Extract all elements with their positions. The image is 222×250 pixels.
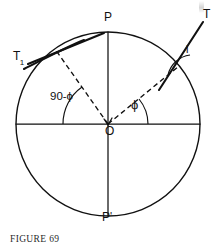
label-pole-bottom: P': [102, 211, 112, 223]
label-pole-bottom-prime: ': [110, 210, 112, 222]
tangent-line-T1-secondary-stroke: [24, 40, 84, 69]
label-tangent-right: T: [203, 8, 210, 20]
label-angle-incidence: i: [186, 44, 188, 55]
figure-caption: FIGURE 69: [10, 234, 59, 244]
label-tangent-left-subscript: 1: [20, 58, 24, 67]
angle-arc-phi: [139, 99, 148, 124]
scan-artifact-speck: [199, 1, 204, 13]
radius-to-left-tangent-point: [55, 49, 108, 124]
figure-69-diagram: P P' O T T1 i ϕ 90-ϕ FIGURE 69: [0, 0, 222, 250]
label-pole-top: P: [104, 11, 112, 23]
label-centre: O: [105, 125, 114, 137]
label-angle-ninety-minus-phi: 90-ϕ: [50, 91, 73, 103]
tangent-line-T: [159, 22, 203, 90]
label-angle-phi: ϕ: [131, 98, 138, 111]
label-pole-bottom-text: P: [102, 210, 110, 224]
label-tangent-left: T1: [13, 50, 25, 65]
